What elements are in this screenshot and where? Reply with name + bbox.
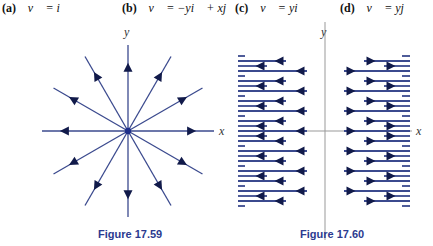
field-arrowhead-left [256,132,265,141]
fig60-y-label: y [320,25,327,39]
radial-vector-line [128,57,171,131]
figure-17-60-caption: Figure 17.60 [300,228,364,240]
field-arrowhead-right [367,157,376,166]
field-arrowhead-left [296,87,305,96]
field-arrowhead-right [387,172,396,181]
figure-17-59-plot [42,45,214,217]
radial-vector-line [85,131,128,205]
radial-vector-arrowhead [187,127,196,136]
fig59-x-label: x [218,124,225,138]
field-arrowhead-left [275,157,284,166]
field-arrowhead-right [347,147,356,156]
field-arrowhead-left [275,137,284,146]
figure-17-59-caption: Figure 17.59 [98,228,162,240]
field-arrowhead-left [275,97,284,106]
field-arrowhead-right [347,67,356,76]
field-arrowhead-right [367,177,376,186]
field-arrowhead-left [296,147,305,156]
field-arrowhead-right [367,137,376,146]
field-arrowhead-right [387,102,396,111]
radial-vector-arrowhead [60,127,69,136]
field-arrowhead-right [347,107,356,116]
field-arrowhead-right [387,192,396,201]
radial-vector-line [54,88,128,131]
fig59-y-label: y [123,25,130,39]
field-arrowhead-left [296,167,305,176]
field-arrowhead-right [387,132,396,141]
radial-vector-arrowhead [124,190,133,199]
field-arrowhead-right [367,57,376,66]
field-arrowhead-right [387,82,396,91]
field-arrowhead-left [256,172,265,181]
radial-vector-line [54,131,128,174]
field-arrowhead-left [275,77,284,86]
field-arrowhead-right [387,122,396,131]
radial-vector-line [128,131,202,174]
field-arrowhead-left [256,192,265,201]
field-arrowhead-right [387,152,396,161]
radial-vector-arrowhead [124,63,133,72]
field-arrowhead-left [296,187,305,196]
field-arrowhead-left [275,57,284,66]
field-arrowhead-left [256,122,265,131]
vector-field-diagrams: y x y x [0,0,433,246]
field-arrowhead-right [367,117,376,126]
field-arrowhead-right [347,187,356,196]
field-arrowhead-left [296,127,305,136]
origin-dot [125,128,131,134]
field-arrowhead-right [367,97,376,106]
field-arrowhead-left [256,62,265,71]
radial-vector-line [85,57,128,131]
field-arrowhead-left [296,107,305,116]
fig60-x-label: x [415,124,422,138]
field-arrowhead-right [367,77,376,86]
radial-vector-line [128,88,202,131]
field-arrowhead-left [275,197,284,206]
radial-vector-line [128,131,171,205]
field-arrowhead-right [347,87,356,96]
field-arrowhead-right [367,197,376,206]
field-arrowhead-left [256,102,265,111]
field-arrowhead-left [256,152,265,161]
field-arrowhead-left [275,177,284,186]
field-arrowhead-right [387,62,396,71]
figure-17-60-plot [238,22,412,240]
field-arrowhead-left [256,82,265,91]
field-arrowhead-left [275,117,284,126]
field-arrowhead-left [296,67,305,76]
field-arrowhead-right [347,167,356,176]
field-arrowhead-right [347,127,356,136]
